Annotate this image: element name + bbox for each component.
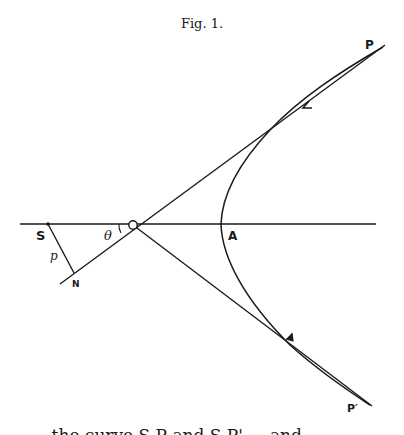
- upper-asymptote-line: [60, 45, 385, 284]
- hyperbola-diagram: S p N θ A P P′: [0, 0, 404, 435]
- label-p-upper: P: [365, 38, 374, 52]
- label-n: N: [72, 279, 80, 289]
- focus-s-dot: [46, 222, 50, 226]
- lower-asymptote-line: [133, 225, 372, 406]
- centre-o-circle: [129, 221, 137, 229]
- label-theta: θ: [104, 228, 112, 243]
- label-s: S: [36, 228, 45, 243]
- arrow-icon-lower: [286, 333, 293, 341]
- truncated-body-text: ... the curve S P and S P' ... and ...: [30, 422, 404, 435]
- hyperbola-curve: [221, 47, 383, 405]
- label-p-prime: P′: [347, 402, 358, 415]
- theta-angle-arc: [119, 224, 121, 233]
- label-a: A: [228, 229, 238, 243]
- label-p: p: [50, 249, 58, 263]
